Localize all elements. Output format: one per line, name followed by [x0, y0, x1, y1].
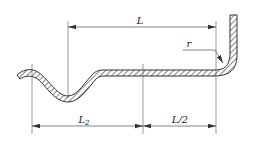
label-L-half: L/2 — [171, 114, 188, 125]
bent-strip-diagram: L L2 L/2 r — [0, 0, 257, 150]
label-L2-subscript: 2 — [84, 119, 90, 127]
label-L2: L2 — [77, 114, 90, 127]
label-r: r — [187, 38, 193, 49]
strip-profile — [17, 15, 237, 102]
label-L: L — [136, 15, 144, 26]
